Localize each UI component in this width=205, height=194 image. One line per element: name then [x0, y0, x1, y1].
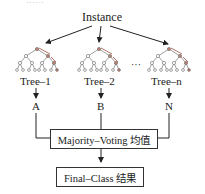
tree-1-icon — [16, 47, 59, 71]
tree-2-label: Tree–2 — [84, 76, 115, 87]
arrow-instance-tree2 — [99, 26, 101, 42]
tree-n-icon — [148, 47, 191, 71]
tree-2-icon — [78, 47, 121, 71]
final-class-box: Final–Class 结果 — [56, 167, 144, 187]
majority-voting-box: Majority–Voting 均值 — [50, 129, 158, 149]
tree-1-label: Tree–1 — [20, 76, 51, 87]
output-n: N — [165, 101, 173, 112]
output-b: B — [97, 101, 104, 112]
arrow-instance-treen — [110, 26, 168, 44]
diagram-canvas — [0, 0, 205, 194]
tree-n-label: Tree–n — [151, 76, 182, 87]
header-fragment: …… — [26, 0, 44, 5]
output-a: A — [32, 101, 40, 112]
instance-label: Instance — [82, 11, 122, 23]
arrow-instance-tree1 — [46, 26, 92, 43]
ellipsis: ··· — [131, 60, 141, 70]
